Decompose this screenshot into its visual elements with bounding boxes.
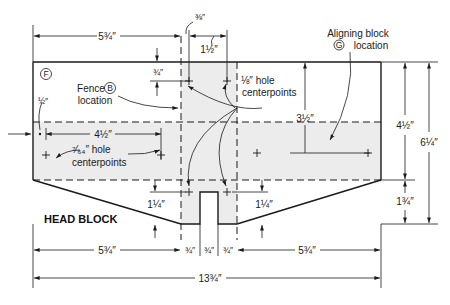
head-block-diagram: F Fence B location Aligning block G loca… [0, 0, 450, 305]
eighth-hole-label-line2: centerpoints [242, 87, 296, 98]
head-block-title: HEAD BLOCK [44, 213, 117, 225]
svg-text:G: G [336, 40, 343, 50]
aligning-block-label-line2: location [354, 40, 388, 51]
dim-right-upper: 4½″ [396, 120, 414, 131]
dim-right-total: 6¼″ [420, 137, 438, 148]
part-marker-f: F [41, 69, 52, 80]
dim-top-left-width: 5¾″ [98, 31, 116, 42]
dim-align-depth: 3½″ [296, 113, 314, 124]
center-slot [200, 192, 218, 224]
svg-text:B: B [107, 83, 113, 93]
dim-overall-width: 13¾″ [198, 273, 221, 284]
dim-one-half: 1½″ [200, 44, 218, 55]
seven64-hole-label-line1: ⁷⁄₆₄″ hole [72, 144, 111, 155]
dim-left-half: ½″ [38, 96, 48, 106]
aligning-marker-g: G [334, 40, 344, 50]
dim-three-eighths: ⅜″ [195, 12, 205, 22]
dim-right-lower: 1¾″ [396, 196, 414, 207]
dim-bottom-seg3: ¾″ [223, 245, 233, 255]
eighth-hole-label-line1: ⅛″ hole [241, 75, 275, 86]
dim-bottom-right: 5¾″ [298, 245, 316, 256]
dim-notch-right: 1¼″ [255, 199, 273, 210]
aligning-block-label-line1: Aligning block [327, 28, 390, 39]
fence-label-line2: location [78, 95, 112, 106]
dim-bottom-seg2: ¾″ [204, 245, 214, 255]
seven64-hole-label-line2: centerpoints [72, 157, 126, 168]
dim-hole-spacing: 4½″ [94, 129, 112, 140]
dim-bottom-left: 5¾″ [98, 245, 116, 256]
fence-marker-b: B [105, 83, 116, 94]
dim-fence-offset: ¾″ [153, 67, 163, 77]
dim-notch-left: 1¼″ [147, 199, 165, 210]
svg-text:F: F [43, 69, 48, 79]
fence-label-line1: Fence [77, 83, 105, 94]
dim-bottom-seg1: ¾″ [185, 245, 195, 255]
